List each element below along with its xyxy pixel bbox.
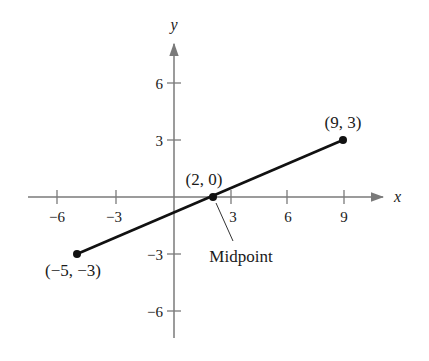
y-tick-label: 3: [156, 133, 164, 149]
y-tick-label: 6: [156, 76, 164, 92]
x-tick-label: 3: [229, 209, 237, 225]
x-tick-label: 9: [340, 209, 348, 225]
endpoint-a-label: (−5, −3): [45, 261, 101, 280]
x-tick-label: −6: [49, 209, 65, 225]
midpoint-dot: [209, 193, 217, 201]
endpoint-a-dot: [73, 250, 81, 258]
x-axis-label: x: [393, 188, 401, 205]
x-tick-label: 6: [284, 209, 292, 225]
endpoint-b-dot: [339, 136, 347, 144]
y-axis: 6 3 −3 −6 y: [147, 16, 181, 338]
y-axis-label: y: [168, 16, 178, 34]
x-tick-label: −3: [106, 209, 122, 225]
y-tick-label: −3: [147, 247, 163, 263]
midpoint-label: (2, 0): [186, 170, 223, 189]
coordinate-plane: −6 −3 3 6 9 x 6 3 −3 −6 y (−5, −3) (2, 0…: [0, 0, 429, 361]
midpoint-callout: Midpoint: [209, 247, 273, 266]
endpoint-b-label: (9, 3): [325, 113, 362, 132]
y-tick-label: −6: [147, 304, 163, 320]
